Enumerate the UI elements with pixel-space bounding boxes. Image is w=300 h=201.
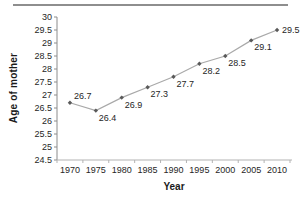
y-tick-label: 29 xyxy=(42,38,52,48)
data-marker xyxy=(120,95,124,99)
y-tick-label: 28 xyxy=(42,64,52,74)
point-label: 26.4 xyxy=(99,113,117,123)
data-marker xyxy=(145,85,149,89)
y-tick-label: 27.5 xyxy=(34,77,52,87)
y-tick-label: 25.5 xyxy=(34,129,52,139)
x-tick-label: 1980 xyxy=(112,165,132,175)
point-label: 29.5 xyxy=(282,25,300,35)
y-tick-label: 26.5 xyxy=(34,103,52,113)
y-tick-label: 24.5 xyxy=(34,155,52,165)
point-label: 29.1 xyxy=(254,42,272,52)
point-label: 28.5 xyxy=(228,58,246,68)
x-tick-label: 1990 xyxy=(163,165,183,175)
y-tick-label: 27 xyxy=(42,90,52,100)
x-tick-label: 2000 xyxy=(215,165,235,175)
x-tick-label: 1995 xyxy=(189,165,209,175)
point-label: 27.3 xyxy=(151,89,169,99)
y-tick-label: 29.5 xyxy=(34,25,52,35)
series-line xyxy=(70,30,277,111)
y-axis-title: Age of mother xyxy=(8,53,19,123)
data-marker xyxy=(197,62,201,66)
x-tick-label: 2005 xyxy=(241,165,261,175)
y-tick-label: 26 xyxy=(42,116,52,126)
x-tick-label: 1970 xyxy=(60,165,80,175)
y-tick-label: 30 xyxy=(42,12,52,22)
x-tick-label: 1985 xyxy=(138,165,158,175)
data-marker xyxy=(275,28,279,32)
point-label: 27.7 xyxy=(177,79,195,89)
data-marker xyxy=(94,108,98,112)
data-marker xyxy=(68,101,72,105)
y-tick-label: 25 xyxy=(42,142,52,152)
x-tick-label: 2010 xyxy=(267,165,287,175)
data-marker xyxy=(171,75,175,79)
page: 3029.52928.52827.52726.52625.52524.51970… xyxy=(0,0,300,201)
y-tick-label: 28.5 xyxy=(34,51,52,61)
age-of-mother-line-chart: 3029.52928.52827.52726.52625.52524.51970… xyxy=(0,0,300,201)
point-label: 28.2 xyxy=(202,66,220,76)
x-tick-label: 1975 xyxy=(86,165,106,175)
point-label: 26.9 xyxy=(125,100,143,110)
x-axis-title: Year xyxy=(163,181,184,192)
point-label: 26.7 xyxy=(74,91,92,101)
